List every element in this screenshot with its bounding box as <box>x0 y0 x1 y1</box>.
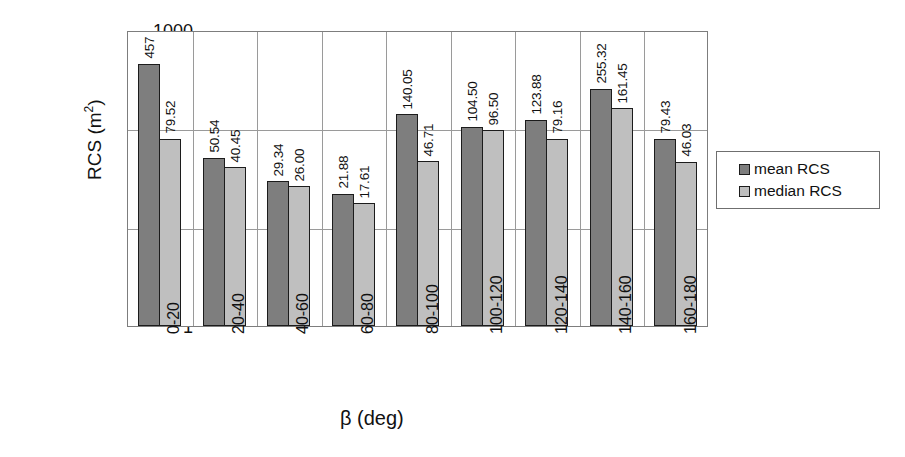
y-axis-title: RCS (m2) <box>82 40 105 240</box>
category-divider <box>322 32 323 326</box>
bar-group: 140.0546.71 <box>386 32 451 326</box>
bar-value-label: 40.45 <box>228 130 242 163</box>
category-divider <box>515 32 516 326</box>
x-tick-label: 40-60 <box>295 318 311 334</box>
rcs-bar-chart: RCS (m2) 1000 100 10 1 45779.5250.5440.4… <box>0 0 905 457</box>
bar-group: 45779.52 <box>128 32 193 326</box>
x-tick-label: 100-120 <box>489 318 505 334</box>
x-tick-label: 60-80 <box>360 318 376 334</box>
x-tick-label: 160-180 <box>683 318 699 334</box>
bar-value-label: 79.16 <box>551 101 565 134</box>
y-axis-title-main: RCS (m <box>84 112 105 180</box>
bar-group: 79.4346.03 <box>644 32 709 326</box>
x-tick-label: 120-140 <box>554 318 570 334</box>
x-tick-label: 80-100 <box>425 318 441 334</box>
bar-value-label: 79.43 <box>659 101 673 134</box>
x-tick-label: 20-40 <box>231 318 247 334</box>
bar-group: 104.5096.50 <box>451 32 516 326</box>
bar-value-label: 21.88 <box>336 156 350 189</box>
legend-label-mean: mean RCS <box>754 160 830 178</box>
bar-value-label: 96.50 <box>486 92 500 125</box>
category-divider <box>257 32 258 326</box>
bar-value-label: 123.88 <box>530 74 544 114</box>
bar-value-label: 161.45 <box>615 63 629 103</box>
bar-mean[interactable]: 50.54 <box>203 158 225 326</box>
bar-group: 21.8817.61 <box>322 32 387 326</box>
bar-mean[interactable]: 79.43 <box>654 139 676 326</box>
bar-mean[interactable]: 29.34 <box>267 181 289 326</box>
bar-value-label: 140.05 <box>401 69 415 109</box>
y-axis-title-tail: ) <box>84 99 105 105</box>
bar-value-label: 46.71 <box>422 124 436 157</box>
category-divider <box>644 32 645 326</box>
category-divider <box>386 32 387 326</box>
y-axis-title-superscript: 2 <box>82 106 96 113</box>
legend: mean RCS median RCS <box>716 151 880 209</box>
legend-item-median[interactable]: median RCS <box>739 180 879 202</box>
bar-value-label: 79.52 <box>164 101 178 134</box>
legend-item-mean[interactable]: mean RCS <box>739 158 879 180</box>
bar-mean[interactable]: 104.50 <box>461 127 483 326</box>
legend-swatch-mean <box>739 164 750 175</box>
bar-value-label: 50.54 <box>207 120 221 153</box>
x-axis-title: β (deg) <box>340 407 404 430</box>
bar-value-label: 29.34 <box>272 143 286 176</box>
bar-group: 123.8879.16 <box>515 32 580 326</box>
bar-mean[interactable]: 21.88 <box>332 194 354 326</box>
bar-median[interactable]: 79.52 <box>159 139 181 327</box>
x-tick-label: 0-20 <box>166 318 182 334</box>
bar-value-label: 46.03 <box>680 124 694 157</box>
bar-value-label: 457 <box>143 37 157 59</box>
bar-group: 255.32161.45 <box>580 32 645 326</box>
category-divider <box>580 32 581 326</box>
bar-value-label: 26.00 <box>293 149 307 182</box>
legend-swatch-median <box>739 186 750 197</box>
category-divider <box>451 32 452 326</box>
bar-group: 29.3426.00 <box>257 32 322 326</box>
bar-value-label: 17.61 <box>357 165 371 198</box>
bar-value-label: 104.50 <box>465 82 479 122</box>
bar-mean[interactable]: 457 <box>138 64 160 326</box>
bar-value-label: 255.32 <box>594 43 608 83</box>
bar-mean[interactable]: 140.05 <box>396 114 418 326</box>
legend-label-median: median RCS <box>754 182 842 200</box>
bar-group: 50.5440.45 <box>193 32 258 326</box>
x-tick-label: 140-160 <box>618 318 634 334</box>
category-divider <box>193 32 194 326</box>
bar-mean[interactable]: 123.88 <box>525 120 547 327</box>
bar-mean[interactable]: 255.32 <box>590 89 612 326</box>
